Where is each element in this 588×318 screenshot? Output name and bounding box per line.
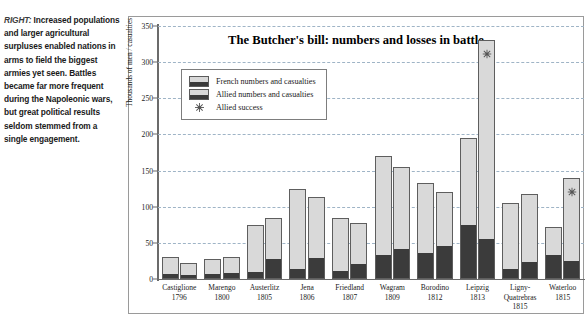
casualties-segment [479, 239, 494, 278]
legend-item-allied: Allied numbers and casualties [189, 88, 316, 101]
x-axis-line [157, 279, 585, 280]
allied-success-star-icon [482, 45, 491, 54]
casualties-segment [503, 269, 518, 278]
battle-year: 1796 [172, 293, 187, 302]
caption-lead: RIGHT: [4, 15, 31, 25]
bar-french[interactable] [545, 227, 562, 279]
bar-allied[interactable] [180, 263, 197, 279]
bar-group [243, 26, 286, 279]
battle-name: Wagram [380, 283, 405, 292]
casualties-segment [564, 261, 579, 278]
legend-item-french: French numbers and casualties [189, 75, 316, 88]
legend-label: Allied numbers and casualties [216, 90, 313, 99]
battle-year: 1806 [300, 293, 315, 302]
bar-swatch-icon [189, 89, 209, 100]
battle-year: 1813 [470, 293, 485, 302]
y-axis-tick-mark [153, 206, 157, 207]
casualties-segment [205, 274, 220, 278]
bar-allied[interactable] [393, 167, 410, 279]
casualties-segment [461, 225, 476, 278]
battle-name: Castiglione [162, 283, 196, 292]
legend-label: French numbers and casualties [216, 77, 316, 86]
battle-year: 1805 [257, 293, 272, 302]
battle-year: 1815 [513, 302, 528, 311]
y-axis-tick-mark [153, 279, 157, 280]
bar-allied[interactable] [308, 197, 325, 279]
y-axis-tick-label: 100 [129, 202, 153, 211]
legend-label: Allied success [216, 103, 263, 112]
casualties-segment [351, 264, 366, 278]
bar-french[interactable] [460, 138, 477, 279]
battle-year: 1812 [427, 293, 442, 302]
bar-french[interactable] [502, 203, 519, 279]
bar-group [286, 26, 329, 279]
bar-swatch-icon [189, 76, 209, 87]
bar-allied[interactable] [521, 194, 538, 279]
battle-name: Leipzig [466, 283, 489, 292]
bar-french[interactable] [332, 218, 349, 279]
bar-allied[interactable] [478, 40, 495, 279]
battle-year: 1815 [555, 293, 570, 302]
bar-group [201, 26, 244, 279]
bar-french[interactable] [204, 259, 221, 279]
bar-french[interactable] [289, 189, 306, 279]
allied-success-star-icon [567, 182, 576, 191]
bar-group [541, 26, 584, 279]
y-axis-tick-label: 250 [129, 94, 153, 103]
bar-group [499, 26, 542, 279]
bar-allied[interactable] [436, 192, 453, 279]
y-axis-tick-label: 300 [129, 58, 153, 67]
casualties-segment [333, 271, 348, 278]
plot-area [158, 26, 584, 279]
battle-name: Friedland [335, 283, 364, 292]
y-axis-tick-label: 200 [129, 130, 153, 139]
casualties-segment [309, 258, 324, 278]
bar-group [158, 26, 201, 279]
battle-year: 1800 [214, 293, 229, 302]
y-axis-tick-mark [153, 170, 157, 171]
y-axis-tick-mark [153, 98, 157, 99]
bar-french[interactable] [375, 156, 392, 279]
y-axis-tick-label: 350 [129, 22, 153, 31]
casualties-segment [224, 273, 239, 278]
bar-allied[interactable] [223, 257, 240, 279]
battle-name: Jena [300, 283, 313, 292]
bar-group [328, 26, 371, 279]
y-axis-tick-mark [153, 242, 157, 243]
chart-legend: French numbers and casualties Allied num… [181, 69, 327, 120]
bar-allied[interactable] [265, 218, 282, 279]
chart-container: The Butcher's bill: numbers and losses i… [128, 16, 584, 314]
bar-french[interactable] [417, 183, 434, 279]
battle-name: Marengo [208, 283, 235, 292]
casualties-segment [394, 249, 409, 278]
battle-name: Austerlitz [250, 283, 280, 292]
battle-name: Ligny-Quatrebras [504, 283, 537, 302]
battle-year: 1809 [385, 293, 400, 302]
casualties-segment [181, 275, 196, 278]
x-axis-tick-label: Waterloo1815 [537, 283, 588, 302]
bar-french[interactable] [247, 225, 264, 279]
casualties-segment [546, 255, 561, 278]
figure-caption: RIGHT: Increased populations and larger … [4, 14, 122, 146]
casualties-segment [376, 255, 391, 278]
casualties-segment [266, 259, 281, 278]
battle-name: Borodino [421, 283, 449, 292]
bar-allied[interactable] [350, 223, 367, 279]
legend-item-allied-success: Allied success [189, 101, 316, 114]
bar-group [414, 26, 457, 279]
bar-group [456, 26, 499, 279]
casualties-segment [163, 274, 178, 278]
battle-year: 1807 [342, 293, 357, 302]
y-axis-tick-label: 150 [129, 166, 153, 175]
caption-text: Increased populations and larger agricul… [4, 15, 120, 144]
y-axis-tick-mark [153, 134, 157, 135]
x-axis-labels: Castiglione1796Marengo1800Austerlitz1805… [158, 281, 584, 315]
battle-name: Waterloo [549, 283, 576, 292]
casualties-segment [522, 262, 537, 278]
chart-page: RIGHT: Increased populations and larger … [0, 0, 588, 318]
bar-french[interactable] [162, 257, 179, 279]
star-icon [189, 102, 209, 113]
y-axis-tick-label: 0 [129, 275, 153, 284]
y-axis-tick-mark [153, 62, 157, 63]
y-axis-tick-mark [153, 26, 157, 27]
